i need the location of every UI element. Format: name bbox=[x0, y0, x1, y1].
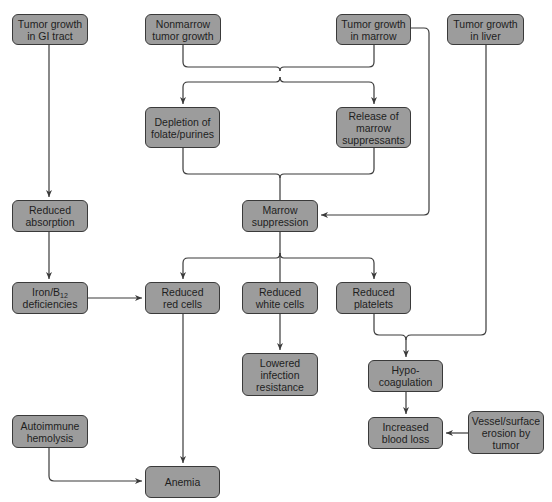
edge-release-merge bbox=[280, 148, 374, 178]
node-tumor-growth-gi-tract: Tumor growthin GI tract bbox=[12, 14, 88, 45]
node-tumor-growth-marrow: Tumor growthin marrow bbox=[336, 14, 411, 45]
node-label: Reduced bbox=[256, 286, 304, 298]
node-label: Nonmarrow bbox=[152, 18, 213, 30]
node-label: white cells bbox=[256, 298, 304, 310]
node-hypocoagulation: Hypo-coagulation bbox=[368, 360, 443, 392]
node-label: infection bbox=[256, 369, 304, 381]
node-label: erosion by bbox=[472, 427, 540, 439]
node-label: in liver bbox=[453, 30, 517, 42]
node-anemia: Anemia bbox=[145, 466, 220, 498]
node-label-prefix: Iron/B bbox=[32, 286, 60, 298]
node-label: absorption bbox=[25, 216, 74, 228]
edge-split-to-release bbox=[280, 77, 374, 104]
edge-depletion-merge bbox=[183, 148, 280, 178]
node-reduced-white-cells: Reducedwhite cells bbox=[242, 282, 318, 314]
node-vessel-surface-erosion: Vessel/surfaceerosion bytumor bbox=[468, 411, 544, 454]
node-label: Release of bbox=[342, 110, 404, 122]
node-label: tumor growth bbox=[152, 30, 213, 42]
node-label: suppression bbox=[252, 216, 309, 228]
node-label: Iron/B12 bbox=[23, 286, 78, 298]
node-label: platelets bbox=[352, 298, 394, 310]
node-tumor-growth-liver: Tumor growthin liver bbox=[447, 14, 524, 45]
edge-marrow-merge bbox=[280, 44, 374, 71]
node-label: resistance bbox=[256, 381, 304, 393]
node-label: Tumor growth bbox=[18, 18, 82, 30]
edge-liver-to-hypo bbox=[406, 44, 486, 340]
node-label: tumor bbox=[472, 439, 540, 451]
edge-autoimmune-to-anemia bbox=[49, 448, 142, 481]
node-label: Hypo- bbox=[379, 364, 433, 376]
node-label: Reduced bbox=[352, 286, 394, 298]
node-label: red cells bbox=[161, 298, 203, 310]
node-label: Reduced bbox=[25, 204, 74, 216]
edge-suppression-to-red bbox=[183, 253, 280, 279]
node-lowered-infection-resistance: Loweredinfectionresistance bbox=[242, 353, 318, 396]
edge-split-to-depletion bbox=[183, 77, 280, 104]
node-label: marrow bbox=[342, 122, 404, 134]
node-reduced-platelets: Reducedplatelets bbox=[336, 282, 411, 314]
edge-platelets-to-hypo bbox=[374, 314, 406, 357]
node-label: Vessel/surface bbox=[472, 415, 540, 427]
node-label: hemolysis bbox=[21, 432, 80, 444]
flowchart-diagram: Tumor growthin GI tract Nonmarrowtumor g… bbox=[0, 0, 552, 502]
node-label: folate/purines bbox=[151, 128, 214, 140]
node-label: Increased bbox=[382, 421, 429, 433]
node-label: Lowered bbox=[256, 357, 304, 369]
node-label: Marrow bbox=[252, 204, 309, 216]
edge-nonmarrow-merge bbox=[183, 44, 280, 71]
node-increased-blood-loss: Increasedblood loss bbox=[368, 417, 443, 449]
node-release-marrow-suppressants: Release ofmarrowsuppressants bbox=[336, 107, 411, 148]
node-label: blood loss bbox=[382, 433, 429, 445]
node-nonmarrow-tumor-growth: Nonmarrowtumor growth bbox=[145, 14, 221, 45]
node-label: deficiencies bbox=[23, 298, 78, 310]
node-label: in GI tract bbox=[18, 30, 82, 42]
node-label: Autoimmune bbox=[21, 420, 80, 432]
node-depletion-folate-purines: Depletion offolate/purines bbox=[145, 107, 220, 148]
node-label: Depletion of bbox=[151, 116, 214, 128]
node-autoimmune-hemolysis: Autoimmunehemolysis bbox=[12, 415, 88, 448]
node-label: coagulation bbox=[379, 376, 433, 388]
node-label: Tumor growth bbox=[453, 18, 517, 30]
node-label: in marrow bbox=[341, 30, 405, 42]
node-reduced-red-cells: Reducedred cells bbox=[145, 282, 220, 314]
node-iron-b12-deficiencies: Iron/B12deficiencies bbox=[12, 282, 88, 314]
node-label: Reduced bbox=[161, 286, 203, 298]
node-reduced-absorption: Reducedabsorption bbox=[12, 200, 88, 232]
node-label: Anemia bbox=[165, 476, 201, 488]
node-label: Tumor growth bbox=[341, 18, 405, 30]
node-label: suppressants bbox=[342, 134, 404, 146]
edge-suppression-to-platelets bbox=[280, 253, 374, 279]
node-marrow-suppression: Marrowsuppression bbox=[242, 200, 318, 232]
